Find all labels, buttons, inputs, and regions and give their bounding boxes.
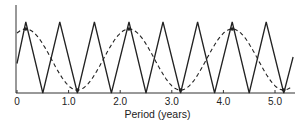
solid-series-line — [17, 22, 293, 93]
data-point-marker — [24, 27, 28, 31]
data-point-marker — [282, 88, 286, 92]
x-axis-label: Period (years) — [0, 108, 303, 120]
x-tick-label: 2.0 — [113, 96, 127, 107]
x-tick-label: 3.0 — [165, 96, 179, 107]
data-point-marker — [76, 88, 80, 92]
data-point-marker — [127, 27, 131, 31]
x-tick-label: 5.0 — [268, 96, 282, 107]
chart-plot — [0, 0, 303, 125]
x-tick-label: 0 — [14, 96, 20, 107]
data-point-marker — [230, 27, 234, 31]
x-tick-label: 4.0 — [216, 96, 230, 107]
data-point-marker — [179, 88, 183, 92]
x-tick-label: 1.0 — [62, 96, 76, 107]
